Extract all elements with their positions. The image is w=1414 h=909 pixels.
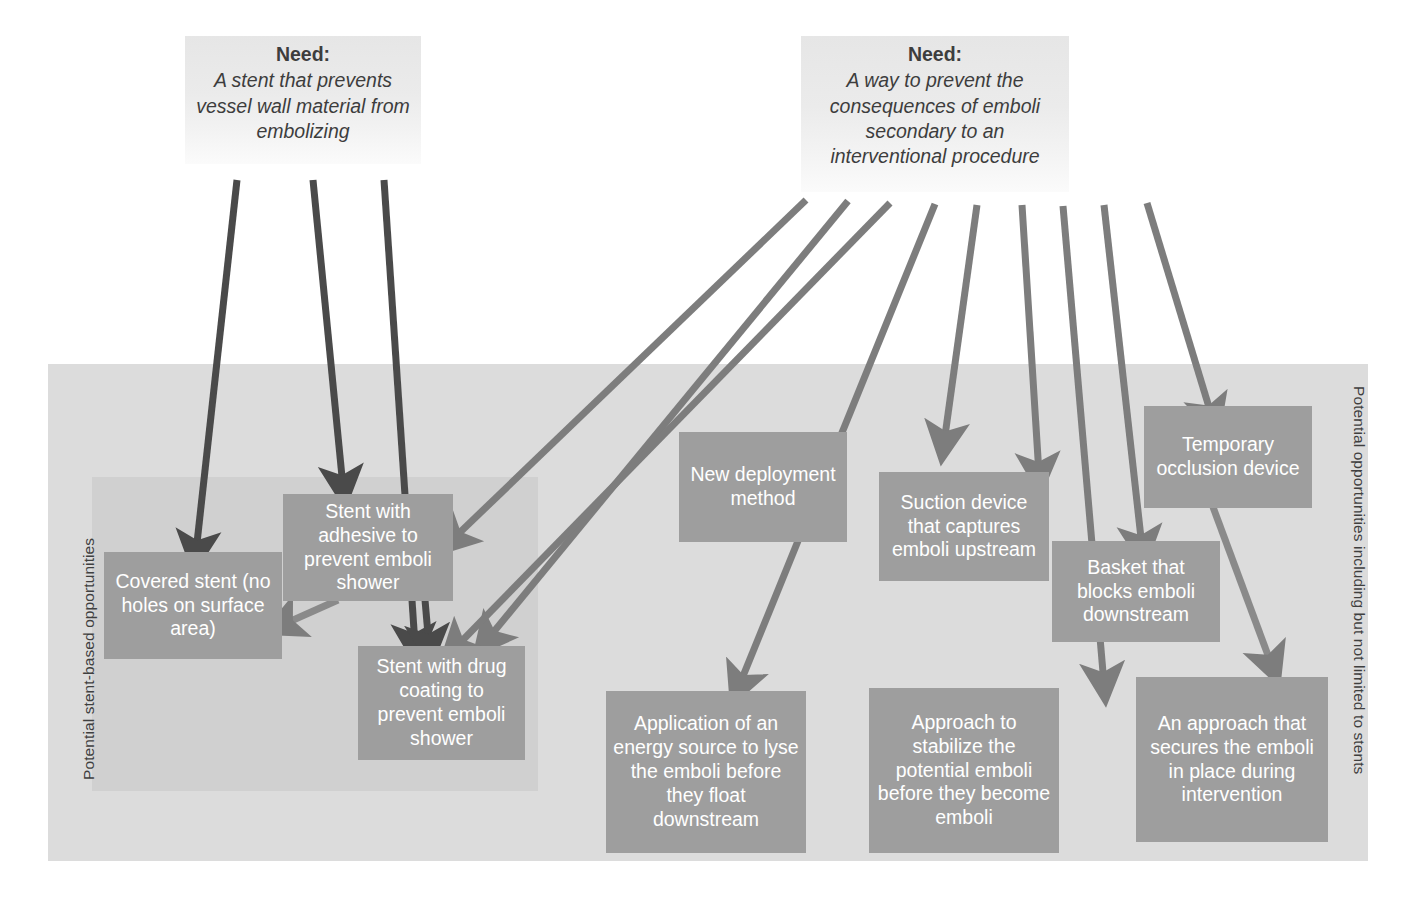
connector-temporary-occlusion-to-secure-emboli	[1213, 507, 1272, 666]
idea-label: Temporary occlusion device	[1150, 433, 1306, 481]
idea-box-covered-stent[interactable]: Covered stent (no holes on surface area)	[104, 552, 282, 659]
need-title: Need:	[809, 42, 1061, 67]
connector-need-emboli-to-temporary-occlusion	[1147, 203, 1212, 417]
connector-need-stent-to-stent-adhesive	[313, 180, 343, 487]
need-box-emboli: Need: A way to prevent the consequences …	[801, 36, 1069, 192]
idea-box-stabilize-emboli[interactable]: Approach to stabilize the potential embo…	[869, 688, 1059, 853]
diagram-canvas: Potential stent-based opportunities Pote…	[0, 0, 1414, 909]
idea-box-temporary-occlusion[interactable]: Temporary occlusion device	[1144, 406, 1312, 508]
idea-label: An approach that secures the emboli in p…	[1142, 712, 1322, 808]
connector-need-emboli-to-stent-drug	[487, 201, 848, 640]
idea-box-energy-source[interactable]: Application of an energy source to lyse …	[606, 691, 806, 853]
idea-box-stent-adhesive[interactable]: Stent with adhesive to prevent emboli sh…	[283, 494, 453, 601]
need-body: A way to prevent the consequences of emb…	[809, 68, 1061, 169]
idea-label: Basket that blocks emboli downstream	[1058, 556, 1214, 628]
idea-box-new-deployment[interactable]: New deployment method	[679, 432, 847, 542]
idea-box-suction-device[interactable]: Suction device that captures emboli upst…	[879, 472, 1049, 581]
idea-box-stent-drug-coating[interactable]: Stent with drug coating to prevent embol…	[358, 646, 525, 760]
idea-label: Stent with drug coating to prevent embol…	[364, 655, 519, 751]
idea-label: Covered stent (no holes on surface area)	[110, 570, 276, 642]
idea-label: New deployment method	[685, 463, 841, 511]
idea-box-secure-emboli[interactable]: An approach that secures the emboli in p…	[1136, 677, 1328, 842]
idea-label: Approach to stabilize the potential embo…	[875, 711, 1053, 831]
connector-stent-adhesive-to-covered-stent	[282, 600, 338, 625]
idea-label: Suction device that captures emboli upst…	[885, 491, 1043, 563]
connector-need-emboli-to-new-deployment	[944, 205, 977, 443]
connector-need-stent-to-covered-stent	[196, 180, 237, 552]
idea-label: Application of an energy source to lyse …	[612, 712, 800, 832]
need-box-stent: Need: A stent that prevents vessel wall …	[185, 36, 421, 164]
connector-stent-adhesive-to-stent-drug	[425, 600, 429, 646]
connector-need-emboli-to-stent-drug-b	[455, 203, 890, 648]
connector-need-emboli-to-basket	[1104, 205, 1142, 547]
connector-need-emboli-to-suction-device	[1022, 205, 1039, 474]
need-body: A stent that prevents vessel wall materi…	[193, 68, 413, 144]
idea-box-basket-blocks[interactable]: Basket that blocks emboli downstream	[1052, 541, 1220, 642]
idea-label: Stent with adhesive to prevent emboli sh…	[289, 500, 447, 596]
need-title: Need:	[193, 42, 413, 67]
